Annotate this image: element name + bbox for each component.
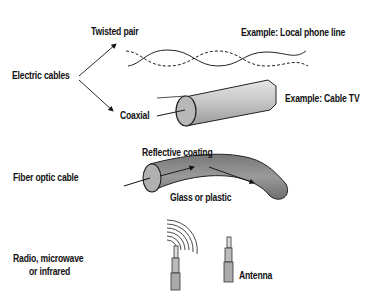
label-radio-line2: or infrared xyxy=(29,266,70,277)
label-coaxial-example: Example: Cable TV xyxy=(285,93,360,104)
label-radio-line1: Radio, microwave xyxy=(13,253,83,264)
coaxial-cable-illustration xyxy=(157,80,276,126)
receiving-antenna-icon xyxy=(224,237,233,282)
label-twisted-pair-example: Example: Local phone line xyxy=(241,27,345,38)
label-electric-cables: Electric cables xyxy=(12,70,70,81)
radio-waves-icon xyxy=(167,220,197,254)
label-coaxial: Coaxial xyxy=(120,110,149,121)
label-antenna: Antenna xyxy=(239,270,272,281)
label-glass-or-plastic: Glass or plastic xyxy=(170,192,231,203)
transmitting-antenna-icon xyxy=(171,246,180,290)
branch-arrows xyxy=(79,44,116,111)
label-fiber-optic: Fiber optic cable xyxy=(13,172,78,183)
label-twisted-pair: Twisted pair xyxy=(91,26,138,37)
label-reflective-coating: Reflective coating xyxy=(142,147,213,158)
twisted-pair-illustration xyxy=(126,50,308,66)
